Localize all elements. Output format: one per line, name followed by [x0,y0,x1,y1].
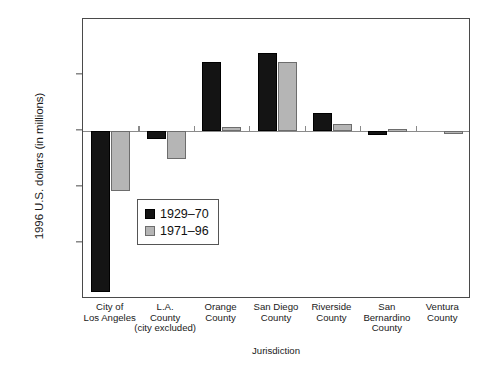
bar-series1 [313,113,332,131]
bar-series1 [258,53,277,131]
bar-series2 [444,131,463,134]
y-axis-tick-mark [76,185,82,186]
x-axis-tick-mark [360,126,361,131]
plot-inner [83,19,469,297]
bar-series1 [368,131,387,135]
bar-series2 [167,131,186,159]
legend-item: 1971–96 [145,222,209,239]
bar-series2 [111,131,130,191]
legend: 1929–70 1971–96 [137,199,219,245]
zero-baseline [83,131,469,132]
y-axis-tick-mark [76,241,82,242]
legend-swatch-icon [145,226,155,236]
x-axis-tick-label-line: Ventura [409,302,476,313]
x-axis-tick-mark [138,126,139,131]
x-axis-tick-label-line: County [409,313,476,324]
x-axis-tick-label-line: (city excluded) [131,323,198,334]
x-axis-tick-label: VenturaCounty [409,302,476,323]
legend-swatch-icon [145,209,155,219]
bar-series1 [91,131,110,292]
x-axis-title: Jurisdiction [82,345,470,356]
y-axis-tick-mark [76,73,82,74]
plot-area [82,18,470,298]
x-axis-tick-label-line: County [353,323,420,334]
x-axis-tick-mark [194,126,195,131]
x-axis-tick-mark [305,126,306,131]
figure-bar-chart: 1996 U.S. dollars (in millions) 1,000500… [0,0,488,376]
bar-series2 [333,124,352,131]
bar-series1 [147,131,166,139]
legend-item: 1929–70 [145,205,209,222]
x-axis-tick-mark [249,126,250,131]
bar-series2 [388,129,407,132]
legend-item-label: 1929–70 [160,207,209,221]
y-axis-tick-mark [76,129,82,130]
x-axis-tick-mark [416,126,417,131]
bar-series1 [202,62,221,131]
legend-item-label: 1971–96 [160,224,209,238]
y-axis-title: 1996 U.S. dollars (in millions) [33,41,45,291]
bar-series2 [278,62,297,131]
bar-series2 [222,127,241,131]
